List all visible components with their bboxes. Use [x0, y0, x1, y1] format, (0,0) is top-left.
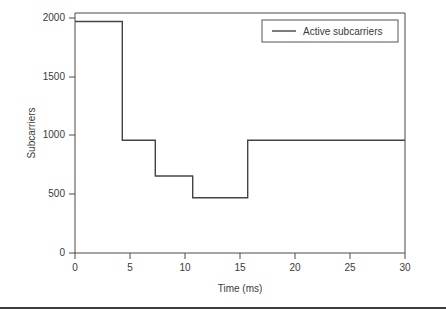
active-subcarriers-step-chart: 0 500 1000 1500 2000 0 5 10 15 20 25 30 [0, 0, 446, 315]
y-tick-label-0: 0 [59, 247, 65, 258]
x-tick-label-10: 10 [179, 262, 191, 273]
x-tick-label-20: 20 [289, 262, 301, 273]
x-tick-label-0: 0 [72, 262, 78, 273]
x-tick-label-30: 30 [399, 262, 411, 273]
x-axis-tick-labels: 0 5 10 15 20 25 30 [72, 262, 411, 273]
plot-frame [75, 13, 405, 253]
y-tick-label-500: 500 [48, 188, 65, 199]
chart-figure: 0 500 1000 1500 2000 0 5 10 15 20 25 30 [0, 0, 446, 315]
legend: Active subcarriers [262, 20, 398, 42]
y-tick-label-1000: 1000 [43, 129, 66, 140]
y-tick-label-1500: 1500 [43, 71, 66, 82]
legend-label-active-subcarriers: Active subcarriers [303, 26, 382, 37]
y-tick-label-2000: 2000 [43, 12, 66, 23]
x-tick-label-15: 15 [234, 262, 246, 273]
x-tick-label-25: 25 [344, 262, 356, 273]
y-axis-title: Subcarriers [26, 107, 37, 158]
y-axis-ticks [69, 18, 75, 253]
series-line-active-subcarriers [75, 22, 405, 198]
x-axis-ticks [75, 253, 405, 259]
x-tick-label-5: 5 [127, 262, 133, 273]
page-bottom-rule [0, 307, 446, 309]
x-axis-title: Time (ms) [218, 283, 263, 294]
y-axis-tick-labels: 0 500 1000 1500 2000 [43, 12, 66, 258]
